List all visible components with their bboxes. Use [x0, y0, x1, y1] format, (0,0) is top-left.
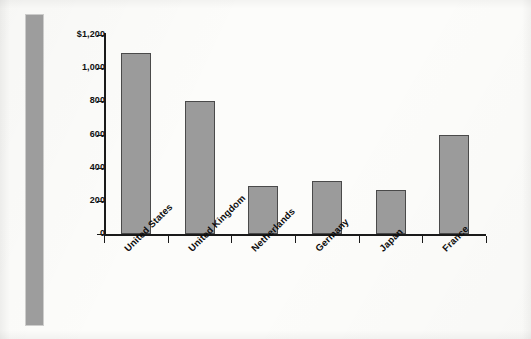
- x-axis-tick-mark: [168, 236, 169, 243]
- y-axis-tick-label: 200: [49, 195, 105, 205]
- bar: [185, 101, 215, 234]
- bar: [376, 190, 406, 234]
- y-axis-tick-label: 600: [49, 129, 105, 139]
- y-axis-tick-label: 1,000: [49, 62, 105, 72]
- x-axis-tick-mark: [104, 236, 105, 243]
- bar: [439, 135, 469, 234]
- x-axis-tick-mark: [486, 236, 487, 243]
- y-axis-tick-mark: [97, 68, 105, 69]
- y-axis-tick-label: 400: [49, 162, 105, 172]
- x-axis-tick-mark: [295, 236, 296, 243]
- y-axis-tick-mark: [97, 35, 105, 36]
- y-axis-tick-label: 800: [49, 95, 105, 105]
- bar-chart-plot-area: $1,2001,0008006004002000 United StatesUn…: [0, 0, 531, 339]
- x-axis-tick-mark: [422, 236, 423, 243]
- y-axis-tick-label: 0: [49, 228, 105, 238]
- y-axis-tick-mark: [97, 201, 105, 202]
- y-axis-tick-mark: [97, 234, 105, 235]
- x-axis-tick-mark: [231, 236, 232, 243]
- y-axis-tick-mark: [97, 135, 105, 136]
- chart-page: $1,2001,0008006004002000 United StatesUn…: [0, 0, 531, 339]
- bar: [121, 53, 151, 234]
- y-axis-tick-label: $1,200: [49, 29, 105, 39]
- x-axis-tick-mark: [359, 236, 360, 243]
- y-axis-tick-mark: [97, 101, 105, 102]
- y-axis-tick-mark: [97, 168, 105, 169]
